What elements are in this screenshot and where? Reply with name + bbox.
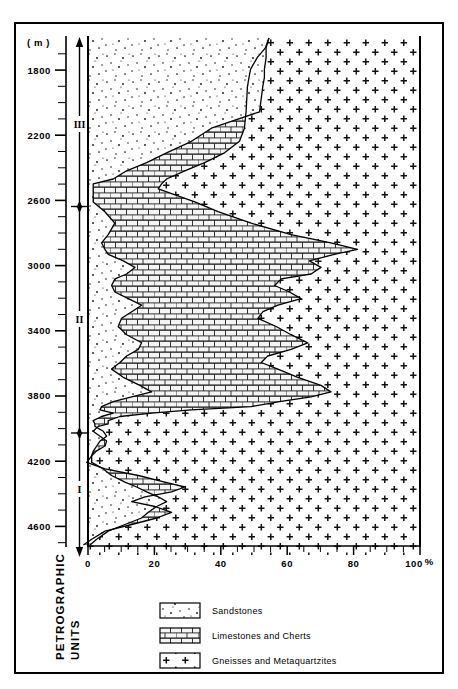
y-tick-label-2200: 2200 bbox=[27, 130, 51, 141]
units-arrow-top bbox=[76, 37, 83, 47]
unit-label-I-text: I bbox=[78, 484, 82, 495]
x-tick-label-100: 100 bbox=[405, 558, 423, 569]
x-tick-label-60: 60 bbox=[281, 558, 293, 569]
legend-label-limestones: Limestones and Cherts bbox=[212, 631, 311, 641]
petrographic-chart: 0 20 40 60 80 100 % bbox=[0, 0, 458, 689]
x-tick-label-20: 20 bbox=[149, 558, 161, 569]
legend-swatch-gneisses bbox=[160, 653, 200, 668]
petrographic-units-bar: III II I bbox=[71, 37, 89, 557]
legend-swatch-limestones bbox=[160, 628, 200, 643]
unit-label-I: I bbox=[75, 481, 85, 497]
units-arrow-bottom bbox=[76, 547, 83, 557]
x-tick-label-40: 40 bbox=[215, 558, 227, 569]
legend-label-gneisses: Gneisses and Metaquartzites bbox=[212, 656, 337, 666]
unit-label-II-text: II bbox=[76, 314, 84, 325]
y-axis-depth-scale: ( m ) 1800 2200 2600 3000 3400 3800 4200… bbox=[27, 36, 66, 547]
unit-label-III-text: III bbox=[74, 119, 86, 130]
depth-unit-label: ( m ) bbox=[27, 37, 50, 48]
legend-item-limestones: Limestones and Cherts bbox=[160, 628, 311, 643]
x-axis-percent-symbol: % bbox=[425, 556, 434, 567]
petrographic-log-figure: 0 20 40 60 80 100 % bbox=[0, 0, 458, 689]
legend: Sandstones Limestones and Cherts Gneisse… bbox=[160, 603, 337, 668]
y-tick-label-3400: 3400 bbox=[27, 325, 51, 336]
petrographic-units-side-label: PETROGRAPHIC UNITS bbox=[54, 553, 81, 660]
y-tick-label-3000: 3000 bbox=[27, 260, 51, 271]
y-tick-label-1800: 1800 bbox=[27, 65, 51, 76]
y-tick-label-2600: 2600 bbox=[27, 195, 51, 206]
legend-item-sandstones: Sandstones bbox=[160, 603, 263, 618]
side-label-line-1: PETROGRAPHIC bbox=[54, 553, 66, 660]
y-tick-label-4200: 4200 bbox=[27, 456, 51, 467]
x-tick-label-0: 0 bbox=[85, 558, 91, 569]
x-tick-label-80: 80 bbox=[348, 558, 360, 569]
y-tick-label-3800: 3800 bbox=[27, 390, 51, 401]
y-axis-minor-ticks bbox=[58, 54, 66, 543]
y-tick-label-4600: 4600 bbox=[27, 521, 51, 532]
unit-label-III: III bbox=[72, 116, 87, 132]
legend-swatch-sandstones bbox=[160, 603, 200, 618]
plot-area bbox=[83, 36, 420, 555]
side-label-line-2: UNITS bbox=[69, 620, 81, 661]
unit-label-II: II bbox=[73, 311, 86, 327]
unit-divider-II-I bbox=[71, 427, 89, 440]
unit-divider-III-II bbox=[71, 201, 89, 214]
legend-item-gneisses: Gneisses and Metaquartzites bbox=[160, 653, 337, 668]
legend-label-sandstones: Sandstones bbox=[212, 606, 263, 616]
